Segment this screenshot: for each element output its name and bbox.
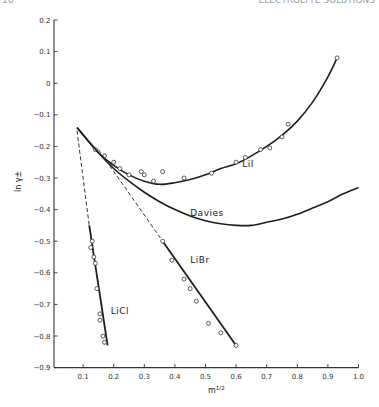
libr-data-point — [194, 299, 198, 303]
lii-data-point — [280, 135, 284, 139]
x-tick-label: 0.6 — [231, 373, 243, 381]
x-tick-label: 0.5 — [200, 373, 211, 381]
lii-data-point — [151, 179, 155, 183]
licl-data-point — [103, 340, 107, 344]
licl-data-point — [98, 312, 102, 316]
libr-dashed-extrapolation — [98, 150, 162, 242]
series-group — [77, 56, 359, 348]
curve-labels: LiIDaviesLiBrLiCl — [111, 159, 254, 316]
y-tick-label: 0.2 — [39, 17, 50, 25]
x-tick-label: 0.2 — [108, 373, 119, 381]
y-tick-label: −0.1 — [34, 111, 51, 119]
lii-data-point — [182, 176, 186, 180]
libr-data-point — [170, 258, 174, 262]
y-tick-label: −0.9 — [34, 364, 51, 372]
x-axis-title-exponent: 1/2 — [216, 385, 225, 391]
y-axis-title: ln γ± — [14, 171, 23, 192]
libr-data-point — [219, 331, 223, 335]
libr-data-point — [161, 239, 165, 243]
lii-data-point — [161, 170, 165, 174]
y-tick-label: −0.4 — [34, 206, 52, 214]
x-tick-label: 0.9 — [322, 373, 333, 381]
label-lii: LiI — [242, 159, 254, 169]
lii-data-point — [139, 170, 143, 174]
licl-data-point — [89, 246, 93, 250]
x-tick-label: 0.3 — [139, 373, 150, 381]
y-tick-label: 0.1 — [39, 48, 50, 56]
y-tick-label: −0.3 — [34, 175, 51, 183]
licl-data-point — [101, 334, 105, 338]
x-tick-label: 0.8 — [292, 373, 303, 381]
label-licl: LiCl — [111, 306, 129, 316]
y-tick-label: −0.7 — [34, 301, 51, 309]
licl-dashed-extrapolation — [77, 131, 89, 226]
licl-data-point — [95, 287, 99, 291]
y-tick-label: −0.5 — [34, 238, 51, 246]
y-tick-label: −0.8 — [34, 333, 51, 341]
label-libr: LiBr — [190, 255, 209, 265]
libr-data-point — [207, 321, 211, 325]
x-tick-label: 0.7 — [261, 373, 272, 381]
licl-data-point — [98, 318, 102, 322]
lii-data-point — [210, 171, 214, 175]
lii-data-point — [286, 122, 290, 126]
lii-data-point — [268, 146, 272, 150]
licl-data-point — [92, 255, 96, 259]
lii-data-point — [142, 173, 146, 177]
x-tick-label: 1.0 — [353, 373, 364, 381]
x-tick-label: 0.1 — [78, 373, 89, 381]
lii-data-point — [118, 167, 122, 171]
y-tick-label: 0 — [46, 80, 50, 88]
libr-data-point — [188, 287, 192, 291]
lii-data-point — [259, 148, 263, 152]
libr-data-point — [182, 277, 186, 281]
licl-data-point — [90, 239, 94, 243]
axes: 0.20.10−0.1−0.2−0.3−0.4−0.5−0.6−0.7−0.8−… — [34, 17, 365, 381]
label-davies: Davies — [190, 208, 224, 218]
x-tick-label: 0.4 — [169, 373, 181, 381]
libr-data-point — [234, 343, 238, 347]
chart: 0.20.10−0.1−0.2−0.3−0.4−0.5−0.6−0.7−0.8−… — [0, 0, 379, 407]
y-tick-label: −0.6 — [34, 269, 52, 277]
licl-data-point — [93, 261, 97, 265]
lii-data-point — [335, 56, 339, 60]
x-axis-title: m1/2 — [208, 385, 225, 395]
y-tick-label: −0.2 — [34, 143, 51, 151]
lii-data-point — [234, 160, 238, 164]
lii-curve — [77, 58, 337, 184]
lii-data-point — [112, 160, 116, 164]
lii-data-point — [127, 173, 131, 177]
